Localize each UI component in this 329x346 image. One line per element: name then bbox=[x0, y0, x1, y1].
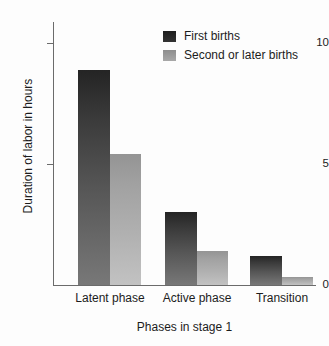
bar-latent-phase-first-births bbox=[78, 70, 110, 285]
legend-item-first-births: First births bbox=[163, 28, 298, 45]
x-axis-title: Phases in stage 1 bbox=[53, 321, 316, 333]
legend-label-second-or-later-births: Second or later births bbox=[184, 49, 298, 62]
bar-active-phase-first-births bbox=[165, 212, 197, 285]
bar-transition-second-or-later-births bbox=[282, 277, 313, 285]
legend-swatch-icon-first-births bbox=[163, 31, 176, 42]
bar-chart: 10 5 0 Duration of labor in hours Latent… bbox=[0, 0, 329, 346]
bar-transition-first-births bbox=[250, 256, 282, 285]
bar-active-phase-second-or-later-births bbox=[197, 251, 228, 285]
bar-latent-phase-second-or-later-births bbox=[110, 154, 141, 285]
legend-swatch-icon-second-or-later-births bbox=[163, 50, 176, 61]
legend-item-second-or-later-births: Second or later births bbox=[163, 47, 298, 64]
chart-legend: First births Second or later births bbox=[163, 28, 298, 66]
x-category-label-active-phase: Active phase bbox=[147, 291, 247, 305]
legend-label-first-births: First births bbox=[184, 30, 240, 43]
x-category-label-transition: Transition bbox=[237, 291, 327, 305]
x-category-label-latent-phase: Latent phase bbox=[60, 291, 160, 305]
